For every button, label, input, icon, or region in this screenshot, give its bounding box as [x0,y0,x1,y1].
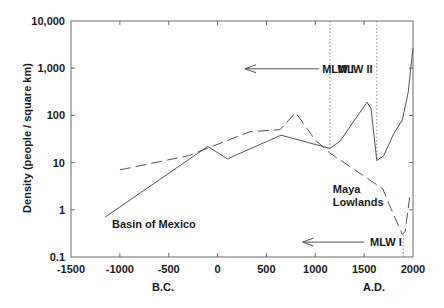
bc-era-label: B.C. [152,281,174,293]
ad-era-label: A.D. [363,281,385,293]
y-tick-label: 10,000 [31,15,65,27]
x-tick-label: -1000 [106,263,134,275]
x-tick-label: 1500 [352,263,376,275]
x-tick-label: 500 [257,263,275,275]
y-axis-title: Density (people / square km) [21,63,33,213]
y-tick-label: 100 [47,109,65,121]
chart-annotations: Basin of MexicoMayaLowlandsMLW IMLW IIML… [112,63,402,248]
annotation-label: Lowlands [333,196,384,208]
density-chart: -1500-1000-50005001000150020000.11101001… [0,0,444,308]
y-tick-label: 0.1 [50,251,65,263]
y-tick-label: 1,000 [37,62,65,74]
x-tick-label: 0 [215,263,221,275]
annotation-label: MLW II [338,63,373,75]
x-tick-label: -500 [158,263,180,275]
chart-axes: -1500-1000-50005001000150020000.11101001… [31,15,425,275]
annotation-label: MLW I [370,236,402,248]
x-tick-label: -1500 [57,263,85,275]
x-tick-label: 1000 [303,263,327,275]
y-tick-label: 10 [53,157,65,169]
x-tick-label: 2000 [401,263,425,275]
maya-lowlands-line [120,113,410,235]
annotation-label: Maya [333,183,361,195]
y-tick-label: 1 [59,204,65,216]
annotation-label: Basin of Mexico [112,218,196,230]
